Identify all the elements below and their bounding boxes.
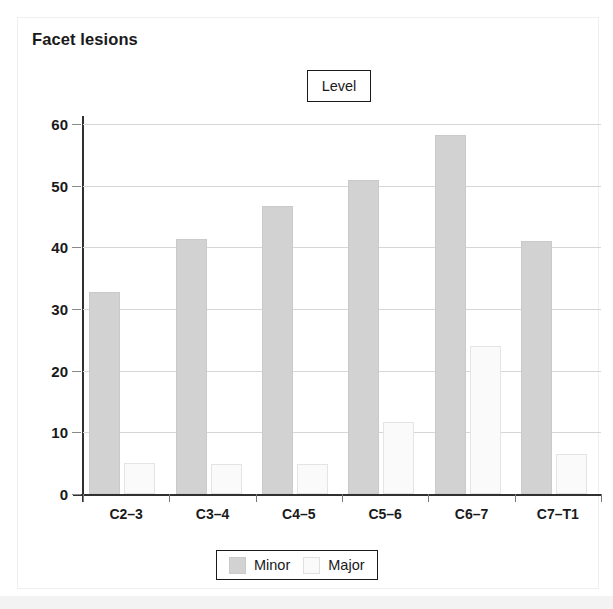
y-axis-tick	[72, 432, 81, 433]
bar-major-C34	[211, 464, 242, 494]
y-axis-tick-label: 60	[51, 116, 68, 133]
x-axis-label-C67: C6–7	[455, 506, 488, 522]
y-axis-tick-label: 20	[51, 362, 68, 379]
bar-major-C67	[470, 346, 501, 494]
x-axis-label-C45: C4–5	[282, 506, 315, 522]
y-axis-tick	[72, 309, 81, 310]
bar-major-C7T1	[556, 454, 587, 494]
legend-swatch-icon	[229, 557, 246, 574]
bar-major-C45	[297, 464, 328, 494]
plot-area: 0102030405060 C2–3C3–4C4–5C5–6C6–7C7–T1	[18, 18, 600, 590]
bar-minor-C34	[176, 239, 207, 494]
x-axis-tick	[169, 494, 170, 502]
page-top-margin	[0, 0, 613, 16]
x-axis-tick	[342, 494, 343, 502]
chart-card: Facet lesions Level 0102030405060 C2–3C3…	[17, 17, 599, 589]
chart-legend: MinorMajor	[216, 550, 378, 580]
x-axis-tick	[515, 494, 516, 502]
bar-minor-C45	[262, 206, 293, 494]
y-axis-tick-label: 30	[51, 301, 68, 318]
gridline	[83, 186, 601, 187]
y-axis-tick	[72, 494, 81, 495]
y-axis-tick	[72, 371, 81, 372]
page-root: Facet lesions Level 0102030405060 C2–3C3…	[0, 0, 613, 609]
x-axis-tick	[428, 494, 429, 502]
legend-entry-minor[interactable]: Minor	[229, 557, 290, 574]
legend-label: Major	[328, 557, 364, 573]
y-axis-tick-label: 40	[51, 239, 68, 256]
bar-minor-C67	[435, 135, 466, 494]
gridline	[83, 124, 601, 125]
bar-major-C23	[124, 463, 155, 494]
legend-label: Minor	[254, 557, 290, 573]
x-axis-tick	[83, 494, 84, 502]
x-axis-label-C23: C2–3	[109, 506, 142, 522]
y-axis-tick-label: 0	[60, 486, 68, 503]
bar-minor-C56	[348, 180, 379, 495]
y-axis-tick	[72, 124, 81, 125]
x-axis-line	[73, 494, 602, 496]
bar-minor-C7T1	[521, 241, 552, 494]
y-axis-tick	[72, 186, 81, 187]
bar-major-C56	[383, 422, 414, 494]
x-axis-label-C56: C5–6	[368, 506, 401, 522]
y-axis-tick-label: 10	[51, 424, 68, 441]
page-bottom-strip	[0, 596, 613, 609]
bar-minor-C23	[89, 292, 120, 494]
legend-entry-major[interactable]: Major	[303, 557, 364, 574]
y-axis-tick	[72, 247, 81, 248]
plot-canvas: 0102030405060 C2–3C3–4C4–5C5–6C6–7C7–T1	[83, 124, 601, 494]
x-axis-label-C7T1: C7–T1	[537, 506, 579, 522]
x-axis-label-C34: C3–4	[196, 506, 229, 522]
x-axis-tick	[256, 494, 257, 502]
legend-swatch-icon	[303, 557, 320, 574]
y-axis-tick-label: 50	[51, 177, 68, 194]
x-axis-tick	[601, 494, 602, 502]
